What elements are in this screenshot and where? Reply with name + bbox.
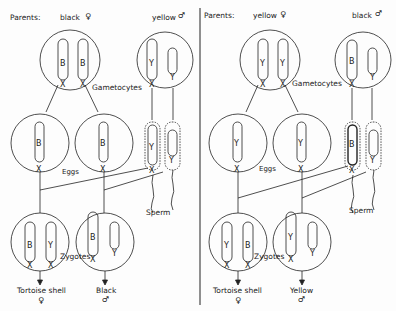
svg-text:X: X	[149, 80, 155, 89]
zygote-cell: B Y X X	[11, 213, 69, 271]
female-parent-label: yellow	[253, 12, 277, 20]
svg-text:X: X	[100, 165, 106, 174]
svg-text:X: X	[90, 255, 96, 264]
svg-text:B: B	[245, 241, 251, 250]
svg-text:Y: Y	[168, 156, 174, 165]
outcome-label: Yellow	[290, 287, 313, 295]
chromosome-label: B	[80, 59, 86, 68]
female-symbol-icon: ♀	[235, 297, 241, 305]
female-symbol-icon: ♀	[280, 11, 286, 19]
svg-text:Y: Y	[223, 241, 229, 250]
male-symbol-icon: ♂	[298, 296, 305, 304]
parent-female-cell: Y Y X X	[240, 30, 300, 90]
svg-text:B: B	[90, 233, 96, 242]
sperm-cell: Y X	[145, 122, 160, 213]
svg-text:X: X	[349, 80, 355, 89]
svg-text:X: X	[60, 80, 66, 89]
sperm-cell: Y	[366, 122, 381, 210]
svg-text:Y: Y	[169, 73, 175, 82]
chromosome-label: B	[60, 59, 66, 68]
parents-label: Parents:	[204, 12, 234, 20]
parent-male-cell: Y Y X	[137, 32, 193, 89]
svg-text:X: X	[27, 261, 33, 270]
svg-text:X: X	[260, 80, 266, 89]
male-symbol-icon: ♂	[375, 10, 382, 18]
zygotes-label: Zygotes	[254, 253, 284, 261]
svg-text:Y: Y	[287, 233, 293, 242]
sperm-label: Sperm	[146, 209, 170, 217]
inheritance-diagram: B B X X Y Y X	[0, 0, 396, 311]
svg-text:Y: Y	[279, 59, 285, 68]
svg-text:X: X	[36, 165, 42, 174]
male-symbol-icon: ♂	[102, 296, 109, 304]
svg-text:X: X	[234, 165, 240, 174]
egg-cell: Y X	[273, 114, 331, 174]
parent-female-cell: B B X X	[40, 30, 100, 90]
svg-text:B: B	[349, 140, 355, 149]
male-parent-label: black	[352, 12, 372, 20]
diagram-graphics: B B X X Y Y X	[0, 0, 396, 311]
svg-text:Y: Y	[369, 156, 375, 165]
male-parent-label: yellow	[152, 14, 176, 22]
outcome-label: Black	[96, 287, 116, 295]
egg-cell: B X	[11, 114, 69, 174]
outcome-label: Tortoise shell	[213, 287, 262, 295]
gametocytes-label: Gametocytes	[292, 80, 342, 88]
svg-text:B: B	[100, 139, 106, 148]
svg-text:X: X	[288, 255, 294, 264]
zygotes-label: Zygotes	[60, 253, 90, 261]
eggs-label: Eggs	[259, 166, 276, 173]
svg-text:B: B	[349, 57, 355, 66]
svg-text:X: X	[280, 80, 286, 89]
svg-text:Y: Y	[309, 249, 315, 258]
zygote-cell: B Y X	[76, 212, 134, 271]
svg-text:X: X	[149, 166, 155, 175]
sperm-cell: Y	[165, 122, 180, 210]
svg-text:Y: Y	[259, 59, 265, 68]
svg-text:Y: Y	[233, 139, 239, 148]
svg-text:Y: Y	[47, 241, 53, 250]
parent-male-cell: B Y X	[335, 32, 391, 89]
svg-text:B: B	[27, 241, 33, 250]
egg-cell: B X	[75, 114, 133, 174]
outcome-label: Tortoise shell	[17, 287, 66, 295]
svg-text:Y: Y	[369, 73, 375, 82]
zygote-cell: Y Y X	[273, 212, 331, 271]
svg-text:B: B	[36, 139, 42, 148]
parents-label: Parents:	[10, 14, 40, 22]
zygote-cell: Y B X X	[209, 213, 267, 271]
male-symbol-icon: ♂	[178, 12, 185, 20]
left-panel: B B X X Y Y X	[11, 30, 193, 285]
svg-text:X: X	[80, 80, 86, 89]
svg-text:Y: Y	[297, 139, 303, 148]
right-panel: Y Y X X B Y X Y X	[209, 30, 391, 285]
female-symbol-icon: ♀	[85, 13, 91, 21]
female-symbol-icon: ♀	[38, 297, 44, 305]
svg-text:Y: Y	[111, 249, 117, 258]
svg-text:X: X	[48, 261, 54, 270]
svg-text:X: X	[349, 166, 355, 175]
svg-text:Y: Y	[148, 59, 154, 68]
svg-text:Y: Y	[148, 143, 154, 152]
sperm-label: Sperm	[349, 207, 373, 215]
svg-text:X: X	[224, 261, 230, 270]
sperm-cell: B X	[345, 122, 360, 213]
svg-text:X: X	[298, 165, 304, 174]
female-parent-label: black	[60, 14, 80, 22]
svg-text:X: X	[245, 261, 251, 270]
gametocytes-label: Gametocytes	[92, 84, 142, 92]
eggs-label: Eggs	[62, 169, 79, 176]
